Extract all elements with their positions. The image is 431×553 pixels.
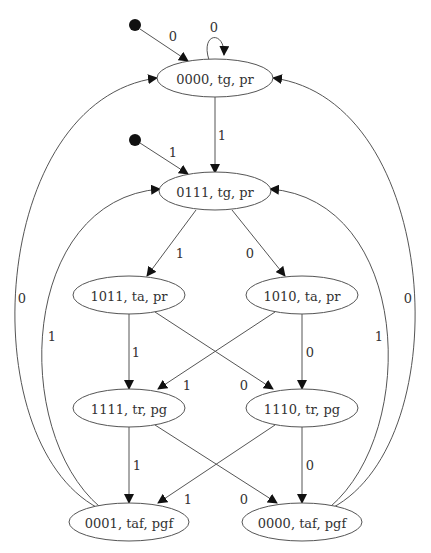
svg-text:1: 1 — [133, 458, 141, 473]
svg-text:1110, tr, pg: 1110, tr, pg — [264, 402, 340, 417]
svg-text:0111, tg, pr: 0111, tg, pr — [176, 185, 254, 200]
edge-start0-s0: 0 — [140, 29, 188, 62]
svg-text:1: 1 — [183, 378, 191, 393]
svg-text:0: 0 — [210, 20, 218, 35]
state-node-s0: 0000, tg, pr — [157, 59, 273, 97]
svg-text:0: 0 — [240, 492, 248, 507]
initial-state-marker-1 — [129, 134, 141, 146]
svg-text:1010, ta, pr: 1010, ta, pr — [263, 289, 341, 304]
svg-text:0: 0 — [18, 291, 26, 306]
state-node-s7: 0000, taf, pgf — [242, 503, 362, 541]
edge-s7-s1: 1 — [270, 189, 388, 507]
edge-s0-self: 0 — [207, 20, 224, 61]
svg-text:1: 1 — [375, 329, 383, 344]
svg-text:0: 0 — [404, 291, 412, 306]
initial-state-marker-0 — [129, 19, 141, 31]
edge-s2-s4: 1 — [129, 313, 140, 389]
svg-text:1: 1 — [48, 329, 56, 344]
state-node-s1: 0111, tg, pr — [159, 172, 271, 210]
svg-text:0: 0 — [169, 29, 177, 44]
state-node-s4: 1111, tr, pg — [73, 389, 185, 427]
svg-text:1: 1 — [132, 345, 140, 360]
edge-s4-s6: 1 — [129, 427, 141, 503]
edge-s4-s7: 0 — [155, 425, 277, 507]
edge-s0-s1: 1 — [215, 97, 226, 173]
state-node-s6: 0001, taf, pgf — [69, 503, 189, 541]
svg-text:0: 0 — [246, 246, 254, 261]
svg-text:0001, taf, pgf: 0001, taf, pgf — [85, 516, 175, 531]
edge-s3-s5: 0 — [302, 313, 314, 389]
svg-text:1011, ta, pr: 1011, ta, pr — [90, 289, 168, 304]
state-node-s5: 1110, tr, pg — [246, 389, 358, 427]
edge-s6-s1: 1 — [42, 189, 160, 507]
edge-start1-s1: 1 — [140, 143, 188, 174]
state-node-s2: 1011, ta, pr — [73, 276, 185, 314]
svg-text:1: 1 — [218, 128, 226, 143]
svg-text:0: 0 — [306, 345, 314, 360]
svg-text:1: 1 — [169, 145, 177, 160]
svg-text:0000, taf, pgf: 0000, taf, pgf — [258, 516, 348, 531]
svg-text:1: 1 — [184, 492, 192, 507]
state-diagram: 0 0 1 1 1 0 1 0 1 0 1 0 — [0, 0, 431, 553]
edge-s1-s3: 0 — [232, 210, 285, 276]
svg-text:0: 0 — [306, 458, 314, 473]
svg-text:1111, tr, pg: 1111, tr, pg — [91, 402, 167, 417]
edge-s5-s6: 1 — [158, 425, 275, 507]
svg-text:0000, tg, pr: 0000, tg, pr — [176, 72, 254, 87]
edge-s1-s2: 1 — [147, 210, 196, 276]
svg-text:1: 1 — [176, 246, 184, 261]
edge-s5-s7: 0 — [302, 427, 314, 503]
state-node-s3: 1010, ta, pr — [246, 276, 358, 314]
svg-text:0: 0 — [240, 378, 248, 393]
